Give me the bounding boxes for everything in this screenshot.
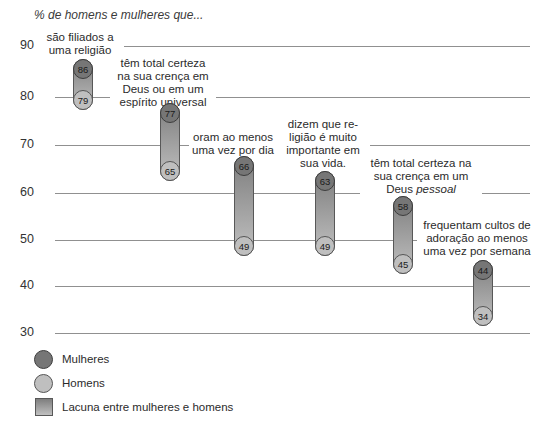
y-axis-tick-40: 40 xyxy=(6,278,34,292)
chart-title: % de homens e mulheres que... xyxy=(34,8,203,22)
category-label-weekly-attendance: frequentam cultos de adoração ao menos u… xyxy=(417,219,537,258)
gridline-30 xyxy=(55,333,530,334)
women-value-dot: 86 xyxy=(73,59,93,79)
y-axis-tick-80: 80 xyxy=(6,89,34,103)
men-value-dot: 49 xyxy=(315,236,335,256)
legend-gap-swatch xyxy=(35,398,53,416)
legend-men-label: Homens xyxy=(62,377,105,389)
legend-women-label: Mulheres xyxy=(62,353,109,365)
women-value-dot: 58 xyxy=(393,196,413,216)
men-value-dot: 34 xyxy=(473,306,493,326)
gridline-40 xyxy=(55,286,530,287)
gender-religion-gap-chart: % de homens e mulheres que... 90 80 70 6… xyxy=(0,0,550,430)
gap-bar-pray-daily: 66 49 xyxy=(234,156,254,256)
category-label-religion-affiliation: são filiados a uma religião xyxy=(36,31,124,57)
category-label-religion-important: dizem que re- ligião é muito importante … xyxy=(276,118,370,170)
legend-women-swatch xyxy=(34,350,53,369)
gap-bar-weekly-attendance: 44 34 xyxy=(473,260,493,326)
y-axis-tick-60: 60 xyxy=(6,185,34,199)
category-label-certain-belief-universal: têm total certeza na sua crença em Deus … xyxy=(110,57,216,109)
women-value-dot: 66 xyxy=(234,156,254,176)
y-axis-tick-70: 70 xyxy=(6,137,34,151)
men-value-dot: 49 xyxy=(234,236,254,256)
men-value-dot: 79 xyxy=(73,90,93,110)
legend-gap-label: Lacuna entre mulheres e homens xyxy=(62,401,233,413)
men-value-dot: 65 xyxy=(160,161,180,181)
gap-bar-religion-affiliation: 86 79 xyxy=(73,59,93,110)
women-value-dot: 63 xyxy=(315,171,335,191)
category-label-personal-god: têm total certeza na sua crença em um De… xyxy=(360,157,482,196)
category-label-pray-daily: oram ao menos uma vez por dia xyxy=(189,131,277,157)
women-value-dot: 77 xyxy=(160,103,180,123)
gridline-90 xyxy=(55,46,530,47)
men-value-dot: 45 xyxy=(393,254,413,274)
women-value-dot: 44 xyxy=(473,260,493,280)
gap-bar-certain-belief-universal: 77 65 xyxy=(160,103,180,181)
y-axis-tick-90: 90 xyxy=(6,38,34,52)
italic-word: pessoal xyxy=(416,183,456,195)
y-axis-tick-30: 30 xyxy=(6,325,34,339)
y-axis-tick-50: 50 xyxy=(6,232,34,246)
legend-men-swatch xyxy=(34,374,53,393)
gap-bar-personal-god: 58 45 xyxy=(393,196,413,274)
gap-bar-religion-important: 63 49 xyxy=(315,171,335,256)
